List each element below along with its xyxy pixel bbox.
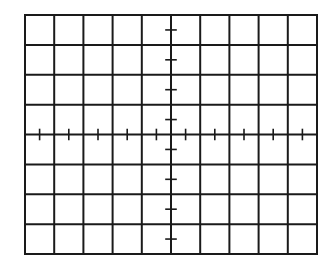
oscilloscope-graticule [0, 0, 329, 272]
graticule-grid [0, 0, 329, 272]
